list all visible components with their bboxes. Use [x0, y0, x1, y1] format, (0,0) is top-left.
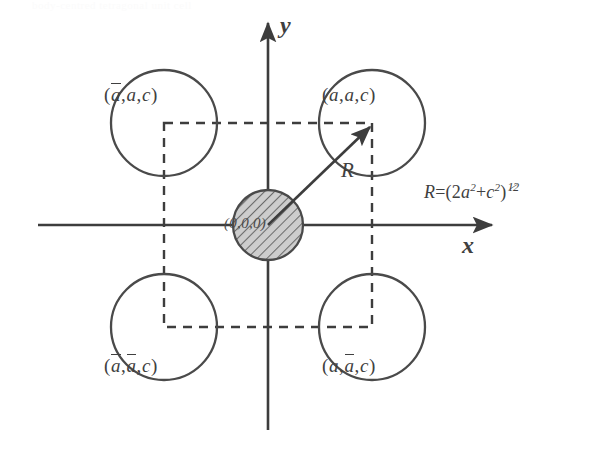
figure-canvas: body-centred tetragonal unit cell [0, 0, 596, 454]
paren-open: ( [104, 355, 111, 376]
x-axis-label: x [462, 232, 474, 259]
coord-a1: a [111, 84, 121, 106]
y-axis-label: y [280, 12, 291, 39]
eq-plus: + [476, 182, 486, 202]
radius-equation: R=(2a2+c2)1∕2 [424, 180, 519, 203]
coord-a2: a [344, 355, 354, 377]
eq-open: (2 [446, 182, 461, 202]
radius-vector-R [268, 127, 370, 225]
center-site-label: (0,0,0) [224, 215, 266, 232]
coord-a1: a [329, 355, 339, 376]
eq-lhs: R [424, 182, 435, 202]
coord-c: c [360, 355, 369, 376]
paren-open: ( [104, 84, 111, 105]
coord-a1: a [111, 355, 121, 377]
coord-c: c [142, 84, 151, 105]
coord-a2: a [344, 84, 354, 105]
coord-c: c [360, 84, 369, 105]
corner-label-bottom-left: (a,a,c) [104, 355, 158, 377]
paren-close: ) [369, 355, 376, 376]
corner-label-bottom-right: (a,a,c) [322, 355, 376, 377]
paren-close: ) [151, 84, 158, 105]
paren-close: ) [369, 84, 376, 105]
coord-a2: a [126, 355, 136, 377]
corner-label-top-right: (a,a,c) [322, 84, 376, 106]
eq-exponent-half: 1∕2 [507, 180, 520, 195]
eq-relation: = [435, 182, 445, 202]
corner-label-top-left: (a,a,c) [104, 84, 158, 106]
radius-label-R: R [341, 158, 354, 183]
paren-close: ) [151, 355, 158, 376]
paren-open: ( [322, 355, 329, 376]
paren-open: ( [322, 84, 329, 105]
coord-c: c [142, 355, 151, 376]
lattice-diagram-svg [0, 0, 596, 454]
coord-a1: a [329, 84, 339, 105]
coord-a2: a [126, 84, 136, 105]
eq-term2-base: c [486, 182, 494, 202]
eq-term1-base: a [461, 182, 470, 202]
